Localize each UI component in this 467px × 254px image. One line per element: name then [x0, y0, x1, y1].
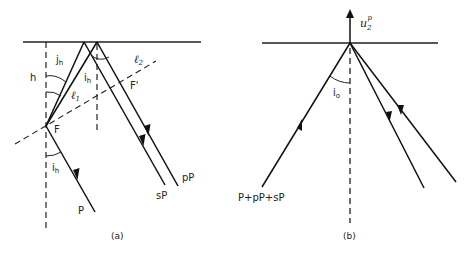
arrow-up-icon [346, 9, 354, 18]
angle-arc-jh [46, 76, 66, 82]
ray-out-1 [350, 43, 424, 188]
angle-arc-io [330, 76, 350, 83]
label-pp: pP [182, 172, 194, 183]
label-l2: ℓ2 [134, 53, 144, 67]
panel-b: u2p io P+pP+sP (b) [238, 9, 456, 241]
label-ih-top: ih [84, 72, 91, 85]
label-io: io [333, 87, 340, 100]
label-jh: jh [55, 54, 63, 67]
ray-incoming [262, 43, 350, 187]
ray-sp [84, 42, 165, 185]
diagram-canvas: jh h ih ℓ1 ℓ2 F' F ih P sP pP (a) u2p io [0, 0, 467, 254]
label-f: F [54, 124, 60, 135]
angle-arc-ih-bottom [46, 152, 61, 156]
ray-up-sp [46, 42, 84, 126]
panel-a: jh h ih ℓ1 ℓ2 F' F ih P sP pP (a) [15, 42, 201, 241]
label-incoming: P+pP+sP [238, 192, 284, 203]
label-h: h [30, 72, 36, 83]
label-sp: sP [156, 190, 167, 201]
caption-b: (b) [343, 231, 356, 241]
label-l1: ℓ1 [71, 89, 80, 103]
ray-out-2 [350, 43, 456, 182]
label-f-prime: F' [130, 80, 139, 91]
angle-arc-h [46, 92, 61, 96]
caption-a: (a) [111, 231, 124, 241]
label-u2p: u2p [360, 14, 373, 32]
label-p: P [78, 205, 84, 216]
label-ih-bottom: ih [52, 162, 59, 175]
